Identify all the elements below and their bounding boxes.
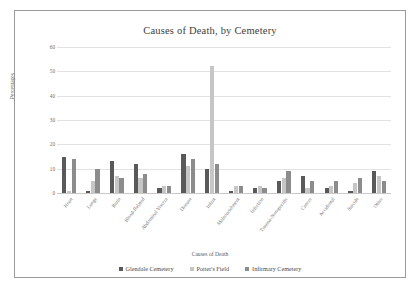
x-axis-tick-slot: Lungs bbox=[81, 195, 105, 247]
x-axis-tick-slot: Cancer bbox=[296, 195, 320, 247]
bar[interactable] bbox=[186, 166, 190, 193]
y-axis-tick: 10 bbox=[50, 166, 55, 172]
bar-group bbox=[176, 47, 200, 193]
bar[interactable] bbox=[329, 186, 333, 193]
legend-item[interactable]: Potter's Field bbox=[190, 265, 230, 272]
y-axis-tick-labels: 0102030405060 bbox=[39, 47, 55, 193]
x-axis-tick-slot: Disease bbox=[176, 195, 200, 247]
bar-group bbox=[81, 47, 105, 193]
legend-item[interactable]: Infirmary Cemetery bbox=[245, 265, 301, 272]
bar[interactable] bbox=[191, 159, 195, 193]
bar[interactable] bbox=[377, 176, 381, 193]
bar[interactable] bbox=[162, 186, 166, 193]
bar-group bbox=[152, 47, 176, 193]
x-axis-tick: Disease bbox=[178, 196, 192, 212]
x-axis-tick: Cancer bbox=[299, 196, 313, 211]
bar[interactable] bbox=[286, 171, 290, 193]
bar[interactable] bbox=[62, 157, 66, 194]
bar-group bbox=[224, 47, 248, 193]
bar[interactable] bbox=[325, 188, 329, 193]
bar[interactable] bbox=[134, 164, 138, 193]
bar-group bbox=[200, 47, 224, 193]
x-axis-tick-slot: Malnourishment bbox=[224, 195, 248, 247]
gridline bbox=[57, 193, 391, 194]
bar-group bbox=[272, 47, 296, 193]
y-axis-tick: 0 bbox=[52, 190, 55, 196]
x-axis-tick: Infection bbox=[248, 196, 264, 214]
bar[interactable] bbox=[167, 186, 171, 193]
x-axis-tick-slot: Trauma-Nonspecific bbox=[272, 195, 296, 247]
bar[interactable] bbox=[229, 191, 233, 193]
bar-groups bbox=[57, 47, 391, 193]
bar[interactable] bbox=[181, 154, 185, 193]
bar[interactable] bbox=[262, 188, 266, 193]
x-axis-tick-slot: Abdominal Viscera bbox=[152, 195, 176, 247]
legend-label: Infirmary Cemetery bbox=[252, 265, 301, 272]
y-axis-tick: 60 bbox=[50, 44, 55, 50]
x-axis-tick: Other bbox=[372, 196, 384, 209]
x-axis-tick-slot: Suicide bbox=[343, 195, 367, 247]
legend-label: Glendale Cemetery bbox=[126, 265, 174, 272]
bar-group bbox=[57, 47, 81, 193]
x-axis-tick-slot: Heart bbox=[57, 195, 81, 247]
y-axis-tick: 50 bbox=[50, 68, 55, 74]
x-axis-tick: Suicide bbox=[346, 196, 360, 212]
bar-group bbox=[129, 47, 153, 193]
x-axis-tick: Brain bbox=[110, 196, 122, 209]
bar[interactable] bbox=[143, 174, 147, 193]
bar[interactable] bbox=[115, 176, 119, 193]
bar[interactable] bbox=[91, 181, 95, 193]
bar[interactable] bbox=[301, 176, 305, 193]
bar[interactable] bbox=[67, 191, 71, 193]
bar[interactable] bbox=[72, 159, 76, 193]
bar[interactable] bbox=[95, 169, 99, 193]
bar[interactable] bbox=[282, 178, 286, 193]
x-axis-tick: Heart bbox=[62, 196, 74, 209]
y-axis-tick: 30 bbox=[50, 117, 55, 123]
y-axis-tick: 40 bbox=[50, 93, 55, 99]
legend-label: Potter's Field bbox=[197, 265, 230, 272]
bar[interactable] bbox=[157, 188, 161, 193]
bar[interactable] bbox=[372, 171, 376, 193]
bar[interactable] bbox=[119, 178, 123, 193]
bar[interactable] bbox=[305, 188, 309, 193]
y-axis-title: Percentages bbox=[9, 73, 15, 99]
bar[interactable] bbox=[215, 164, 219, 193]
legend-swatch-icon bbox=[119, 267, 123, 271]
bar[interactable] bbox=[205, 169, 209, 193]
x-axis-tick-slot: Other bbox=[367, 195, 391, 247]
x-axis-tick: Infant bbox=[205, 196, 217, 209]
bar[interactable] bbox=[258, 186, 262, 193]
bar[interactable] bbox=[382, 181, 386, 193]
bar-group bbox=[367, 47, 391, 193]
legend-item[interactable]: Glendale Cemetery bbox=[119, 265, 174, 272]
plot-area bbox=[57, 47, 391, 193]
bar[interactable] bbox=[358, 178, 362, 193]
bar[interactable] bbox=[310, 181, 314, 193]
x-axis-tick-labels: HeartLungsBrainBlood-RelatedAbdominal Vi… bbox=[57, 195, 391, 247]
bar[interactable] bbox=[210, 66, 214, 193]
bar[interactable] bbox=[348, 191, 352, 193]
bar-group bbox=[105, 47, 129, 193]
bar-group bbox=[296, 47, 320, 193]
bar[interactable] bbox=[239, 186, 243, 193]
bar[interactable] bbox=[334, 181, 338, 193]
bar[interactable] bbox=[234, 186, 238, 193]
bar[interactable] bbox=[277, 181, 281, 193]
bar-group bbox=[248, 47, 272, 193]
x-axis-tick: Lungs bbox=[85, 196, 98, 210]
bar[interactable] bbox=[86, 191, 90, 193]
bar[interactable] bbox=[353, 183, 357, 193]
y-axis-tick: 20 bbox=[50, 141, 55, 147]
bar-group bbox=[343, 47, 367, 193]
x-axis-tick-slot: Accidental bbox=[319, 195, 343, 247]
x-axis-tick: Accidental bbox=[318, 196, 336, 217]
legend: Glendale CemeteryPotter's FieldInfirmary… bbox=[15, 265, 405, 272]
legend-swatch-icon bbox=[190, 267, 194, 271]
legend-swatch-icon bbox=[245, 267, 249, 271]
bar[interactable] bbox=[138, 178, 142, 193]
x-axis-title: Causes of Death bbox=[15, 251, 405, 257]
chart-title: Causes of Death, by Cemetery bbox=[15, 25, 405, 36]
bar[interactable] bbox=[110, 161, 114, 193]
bar[interactable] bbox=[253, 188, 257, 193]
